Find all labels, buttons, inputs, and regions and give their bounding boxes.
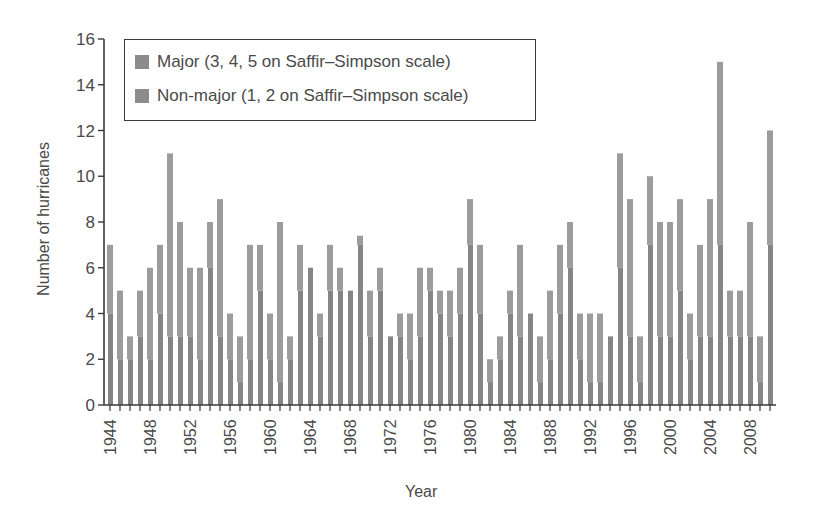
- bar-nonmajor: [177, 222, 183, 336]
- bar-nonmajor: [167, 153, 173, 336]
- bar-1978: [447, 291, 453, 405]
- bar-1957: [237, 336, 243, 405]
- bar-1973: [397, 314, 403, 406]
- bar-nonmajor: [547, 291, 553, 360]
- bar-major: [318, 336, 323, 405]
- y-tick-label: 2: [86, 350, 95, 369]
- bar-1967: [337, 268, 343, 405]
- bar-nonmajor: [437, 291, 443, 314]
- bar-major: [408, 359, 413, 405]
- bar-major: [738, 336, 743, 405]
- bar-major: [368, 336, 373, 405]
- bar-1971: [377, 268, 383, 405]
- bar-1995: [617, 153, 623, 405]
- bar-major: [208, 268, 213, 405]
- bar-1974: [407, 314, 413, 406]
- bar-major: [228, 359, 233, 405]
- bar-nonmajor: [587, 314, 593, 383]
- bar-nonmajor: [287, 336, 293, 359]
- bar-nonmajor: [277, 222, 283, 382]
- bar-major: [488, 382, 493, 405]
- bar-major: [258, 291, 263, 405]
- y-tick-label: 0: [86, 396, 95, 415]
- bar-major: [508, 314, 513, 406]
- bar-nonmajor: [457, 268, 463, 314]
- bar-nonmajor: [647, 176, 653, 245]
- bar-nonmajor: [427, 268, 433, 291]
- bar-major: [638, 382, 643, 405]
- bar-1956: [227, 314, 233, 406]
- bar-major: [498, 359, 503, 405]
- bar-nonmajor: [267, 314, 273, 360]
- bar-1998: [647, 176, 653, 405]
- bar-1981: [477, 245, 483, 405]
- bar-nonmajor: [507, 291, 513, 314]
- y-tick-label: 12: [76, 122, 95, 141]
- bar-major: [478, 314, 483, 406]
- x-tick-label: 1980: [462, 419, 479, 455]
- x-tick-label: 1984: [502, 419, 519, 455]
- bar-major: [168, 336, 173, 405]
- bar-major: [538, 382, 543, 405]
- bar-2009: [757, 336, 763, 405]
- y-tick-label: 8: [86, 213, 95, 232]
- x-tick-label: 2004: [702, 419, 719, 455]
- bar-major: [398, 336, 403, 405]
- bar-1965: [317, 314, 323, 406]
- bar-major: [158, 314, 163, 406]
- legend-item-major: Major (3, 4, 5 on Saffir–Simpson scale): [135, 52, 451, 72]
- bar-nonmajor: [117, 291, 123, 360]
- x-tick-label: 2008: [742, 419, 759, 455]
- bar-1953: [197, 268, 203, 405]
- bar-major: [548, 359, 553, 405]
- bar-1986: [528, 314, 533, 406]
- bar-2004: [707, 199, 713, 405]
- bar-nonmajor: [707, 199, 713, 336]
- bar-1969: [357, 236, 363, 405]
- bar-2005: [717, 62, 723, 405]
- legend-swatch-major: [135, 55, 149, 69]
- bar-2010: [767, 131, 773, 406]
- bar-1980: [467, 199, 473, 405]
- bar-1944: [107, 245, 113, 405]
- bar-1958: [247, 245, 253, 405]
- bar-1962: [287, 336, 293, 405]
- bar-nonmajor: [377, 268, 383, 291]
- legend-item-nonmajor: Non-major (1, 2 on Saffir–Simpson scale): [135, 86, 469, 106]
- bar-major: [588, 382, 593, 405]
- bar-major: [418, 336, 423, 405]
- bar-nonmajor: [147, 268, 153, 360]
- bar-1951: [177, 222, 183, 405]
- bar-major: [218, 336, 223, 405]
- bar-major: [148, 359, 153, 405]
- bar-major: [248, 359, 253, 405]
- bar-nonmajor: [727, 291, 733, 337]
- bar-nonmajor: [367, 291, 373, 337]
- bar-nonmajor: [127, 336, 133, 359]
- bar-nonmajor: [737, 291, 743, 337]
- y-tick-label: 4: [86, 305, 95, 324]
- bar-major: [128, 359, 133, 405]
- bar-1979: [457, 268, 463, 405]
- y-axis-label: Number of hurricanes: [35, 119, 53, 319]
- bar-major: [668, 336, 673, 405]
- bar-nonmajor: [597, 314, 603, 383]
- bar-1994: [608, 336, 613, 405]
- bar-major: [598, 382, 603, 405]
- x-tick-label: 1972: [382, 419, 399, 455]
- bar-1959: [257, 245, 263, 405]
- bar-1966: [327, 245, 333, 405]
- bar-1991: [577, 314, 583, 406]
- bar-major: [448, 336, 453, 405]
- bar-nonmajor: [467, 199, 473, 245]
- bar-1988: [547, 291, 553, 405]
- bar-major: [308, 268, 313, 405]
- bar-major: [648, 245, 653, 405]
- bar-nonmajor: [447, 291, 453, 337]
- bar-major: [118, 359, 123, 405]
- bar-nonmajor: [747, 222, 753, 336]
- bar-1963: [297, 245, 303, 405]
- bar-1947: [137, 291, 143, 405]
- bar-1993: [597, 314, 603, 406]
- x-tick-label: 1952: [182, 419, 199, 455]
